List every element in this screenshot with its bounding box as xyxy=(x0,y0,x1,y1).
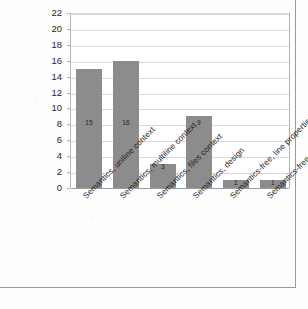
y-tick-label-14: 14 xyxy=(36,72,62,82)
gridline-8 xyxy=(71,125,289,126)
bar: 15 xyxy=(76,69,102,188)
gridline-0 xyxy=(71,188,289,189)
y-tick-label-16: 16 xyxy=(36,56,62,66)
bar-chart: 2220181614121086420 15163911 Semantics, … xyxy=(0,0,308,309)
gridline-10 xyxy=(71,109,289,110)
gridline-4 xyxy=(71,157,289,158)
y-tick-label-20: 20 xyxy=(36,24,62,34)
y-tick-label-4: 4 xyxy=(36,151,62,161)
y-tick-label-2: 2 xyxy=(36,167,62,177)
gridline-12 xyxy=(71,94,289,95)
bar-value-label: 15 xyxy=(76,120,102,127)
y-tick-label-6: 6 xyxy=(36,135,62,145)
y-tick-mark-0 xyxy=(67,188,70,189)
y-tick-label-0: 0 xyxy=(36,183,62,193)
y-tick-label-12: 12 xyxy=(36,88,62,98)
bar-value-label: 16 xyxy=(113,120,139,127)
y-tick-label-10: 10 xyxy=(36,103,62,113)
chart-page: 2220181614121086420 15163911 Semantics, … xyxy=(0,0,308,309)
gridline-16 xyxy=(71,62,289,63)
plot-area: 15163911 xyxy=(70,13,290,188)
gridline-20 xyxy=(71,30,289,31)
gridline-18 xyxy=(71,46,289,47)
gridline-14 xyxy=(71,78,289,79)
y-tick-label-22: 22 xyxy=(36,8,62,18)
y-tick-label-8: 8 xyxy=(36,119,62,129)
gridline-22 xyxy=(71,14,289,15)
y-tick-label-18: 18 xyxy=(36,40,62,50)
